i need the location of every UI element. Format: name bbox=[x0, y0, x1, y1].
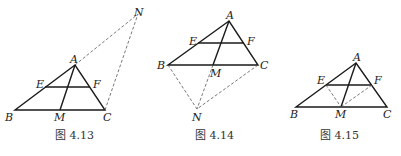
figure-4-13: A B C M E F N 图 4.13 bbox=[4, 6, 144, 142]
dashed-an bbox=[75, 14, 138, 65]
dashed-cn bbox=[105, 14, 138, 110]
dashed-cn bbox=[197, 65, 258, 109]
label-e: E bbox=[316, 74, 325, 87]
caption-4-13: 图 4.13 bbox=[55, 129, 94, 142]
dashed-em bbox=[326, 85, 341, 107]
label-a: A bbox=[225, 9, 234, 22]
geometry-diagram: A B C M E F N 图 4.13 A B C M E F N 图 4.1… bbox=[0, 0, 401, 156]
label-c: C bbox=[260, 59, 269, 72]
label-c: C bbox=[103, 111, 112, 124]
label-b: B bbox=[4, 111, 13, 124]
label-e: E bbox=[35, 78, 44, 91]
label-a: A bbox=[352, 51, 361, 64]
label-m: M bbox=[209, 67, 222, 80]
label-c: C bbox=[383, 108, 392, 121]
label-f: F bbox=[246, 35, 255, 48]
label-m: M bbox=[334, 108, 347, 121]
label-m: M bbox=[53, 111, 66, 124]
label-n: N bbox=[133, 6, 144, 19]
figure-4-14: A B C M E F N 图 4.14 bbox=[156, 9, 269, 142]
label-f: F bbox=[373, 74, 382, 87]
figure-4-15: A B C M E F 图 4.15 bbox=[289, 51, 392, 142]
label-e: E bbox=[188, 35, 197, 48]
label-b: B bbox=[289, 108, 298, 121]
label-f: F bbox=[92, 78, 101, 91]
caption-4-14: 图 4.14 bbox=[195, 129, 234, 142]
label-b: B bbox=[156, 59, 165, 72]
dashed-bn bbox=[168, 65, 197, 109]
label-a: A bbox=[69, 53, 78, 66]
label-n: N bbox=[191, 111, 202, 124]
caption-4-15: 图 4.15 bbox=[320, 129, 359, 142]
dashed-fm bbox=[341, 85, 372, 107]
